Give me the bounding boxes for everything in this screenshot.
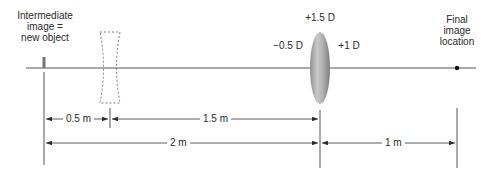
intermediate-line-1: Intermediate — [0, 10, 90, 21]
final-line-3: location — [432, 36, 482, 47]
converging-lens — [310, 32, 330, 104]
diverging-power-label: −0.5 D — [268, 40, 308, 51]
total-power-label: +1.5 D — [295, 12, 345, 23]
final-image-label: Final image location — [432, 14, 482, 47]
dim-label-2m: 2 m — [167, 138, 190, 148]
final-image-point — [455, 66, 459, 70]
dim-label-1m: 1 m — [382, 138, 405, 148]
dim-label-0-5m: 0.5 m — [63, 114, 94, 124]
intermediate-line-3: new object — [0, 32, 90, 43]
intermediate-object-marker — [43, 57, 46, 68]
converging-power-label: +1 D — [334, 40, 364, 51]
intermediate-image-label: Intermediate image = new object — [0, 10, 90, 43]
final-line-1: Final — [432, 14, 482, 25]
final-line-2: image — [432, 25, 482, 36]
intermediate-line-2: image = — [0, 21, 90, 32]
dim-label-1-5m: 1.5 m — [200, 114, 231, 124]
